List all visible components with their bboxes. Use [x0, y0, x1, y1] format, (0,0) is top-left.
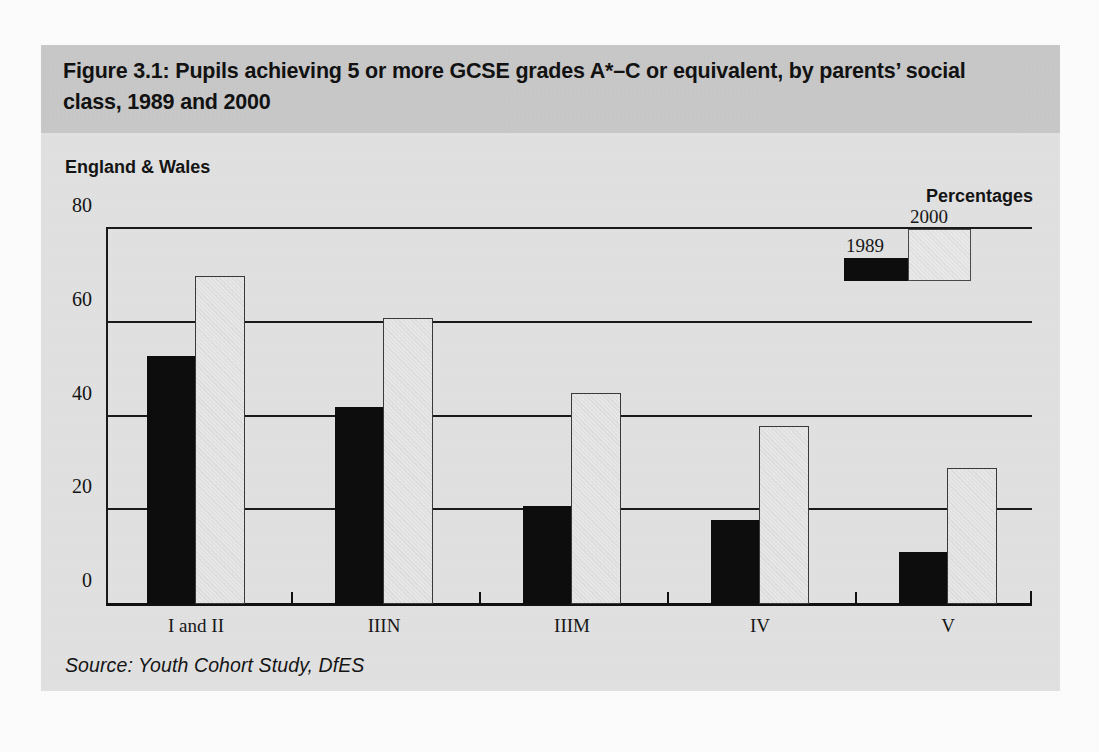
plot-area: 020406080 I and IIIIINIIIMIVV — [106, 229, 1032, 604]
x-tick-mark-2 — [667, 592, 669, 604]
figure-title: Figure 3.1: Pupils achieving 5 or more G… — [63, 56, 1023, 118]
y-tick-label-80: 80 — [72, 194, 92, 217]
chart-subtitle-region: England & Wales — [65, 157, 210, 178]
bar-1989-I-and-II — [147, 356, 195, 604]
x-tick-label-IV: IV — [750, 615, 770, 637]
chart-units-label: Percentages — [926, 186, 1033, 207]
y-tick-label-20: 20 — [72, 475, 92, 498]
legend-swatch-2000 — [908, 229, 971, 281]
legend-label-2000: 2000 — [910, 206, 948, 228]
legend-label-1989: 1989 — [846, 235, 884, 257]
figure-header-band: Figure 3.1: Pupils achieving 5 or more G… — [41, 45, 1060, 133]
x-tick-mark-1 — [479, 592, 481, 604]
x-tick-label-IIIN: IIIN — [368, 615, 401, 637]
bar-2000-V — [947, 468, 997, 604]
bar-2000-IV — [759, 426, 809, 604]
bar-1989-IIIM — [523, 506, 571, 604]
figure-source-note: Source: Youth Cohort Study, DfES — [65, 654, 364, 677]
x-tick-mark-0 — [291, 592, 293, 604]
figure-block: Figure 3.1: Pupils achieving 5 or more G… — [41, 45, 1060, 691]
y-tick-label-0: 0 — [82, 569, 92, 592]
x-tick-label-V: V — [941, 615, 955, 637]
bar-2000-I-and-II — [195, 276, 245, 604]
legend: 1989 2000 — [844, 219, 994, 281]
figure-body: England & Wales Percentages 020406080 I … — [41, 133, 1060, 691]
bar-1989-V — [899, 552, 947, 604]
y-tick-label-40: 40 — [72, 382, 92, 405]
y-tick-label-60: 60 — [72, 288, 92, 311]
bar-1989-IIIN — [335, 407, 383, 604]
x-tick-label-I-and-II: I and II — [168, 615, 224, 637]
bar-2000-IIIM — [571, 393, 621, 604]
bar-2000-IIIN — [383, 318, 433, 604]
bar-1989-IV — [711, 520, 759, 604]
x-tick-mark-3 — [855, 592, 857, 604]
x-tick-label-IIIM: IIIM — [554, 615, 590, 637]
legend-swatch-1989 — [844, 258, 908, 281]
bars-group — [106, 229, 1032, 604]
